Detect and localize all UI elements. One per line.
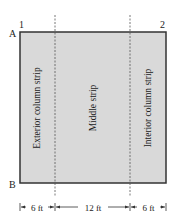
middle-strip-width-label: 12 ft <box>85 203 102 213</box>
exterior-column-strip-label: Exterior column strip <box>32 67 42 149</box>
column-line-2-label: 2 <box>160 19 165 30</box>
slab-diagram: 1 2 A B Exterior column strip Middle str… <box>0 0 176 224</box>
middle-strip-label: Middle strip <box>88 84 98 131</box>
row-line-a-label: A <box>9 28 17 39</box>
row-line-b-label: B <box>9 179 16 190</box>
interior-strip-width-label: 6 ft <box>142 203 155 213</box>
exterior-strip-width-label: 6 ft <box>31 203 44 213</box>
interior-column-strip-label: Interior column strip <box>143 68 153 147</box>
column-line-1-label: 1 <box>19 19 24 30</box>
